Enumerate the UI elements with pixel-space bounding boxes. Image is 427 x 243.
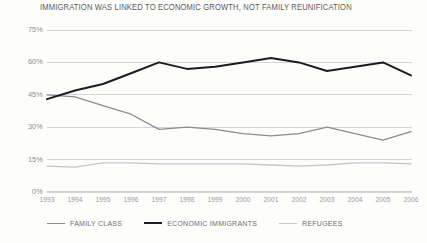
y-axis-tick-label: 75% (28, 26, 43, 34)
legend-swatch-icon (47, 223, 65, 224)
y-axis-tick-label: 60% (28, 58, 43, 66)
x-axis-tick-label: 1993 (39, 196, 54, 203)
x-axis-tick-label: 1998 (179, 196, 194, 203)
x-axis-tick-label: 1999 (207, 196, 222, 203)
legend-swatch-icon (279, 223, 297, 224)
series-line-family-class (47, 95, 411, 140)
x-axis-tick-label: 2001 (263, 196, 278, 203)
y-axis-tick-label: 30% (28, 123, 43, 131)
x-axis-tick-label: 1997 (151, 196, 166, 203)
legend-item-refugees[interactable]: REFUGEES (279, 220, 343, 227)
x-axis-tick-label: 2003 (319, 196, 334, 203)
x-axis-line (47, 191, 412, 192)
x-axis-tick-label: 2000 (235, 196, 250, 203)
series-line-economic-immigrants (47, 58, 411, 99)
x-axis-tick-label: 1995 (95, 196, 110, 203)
chart-legend: FAMILY CLASSECONOMIC IMMIGRANTSREFUGEES (47, 216, 412, 230)
x-axis-tick-label: 1996 (123, 196, 138, 203)
legend-label: ECONOMIC IMMIGRANTS (167, 220, 257, 227)
legend-swatch-icon (144, 222, 162, 224)
x-axis-tick-label: 2004 (347, 196, 362, 203)
x-axis-tick-label: 2002 (291, 196, 306, 203)
plot-area (47, 30, 412, 192)
y-axis-tick-label: 0% (32, 188, 43, 196)
chart-title: IMMIGRATION WAS LINKED TO ECONOMIC GROWT… (40, 3, 352, 12)
chart-container: IMMIGRATION WAS LINKED TO ECONOMIC GROWT… (0, 0, 427, 243)
series-lines (47, 30, 412, 192)
x-axis-labels: 1993199419951996199719981999200020012002… (47, 196, 412, 208)
x-axis-tick-label: 1994 (67, 196, 82, 203)
y-axis-tick-label: 45% (28, 91, 43, 99)
x-axis-tick-label: 2006 (403, 196, 418, 203)
y-axis-tick-label: 15% (28, 156, 43, 164)
y-axis-labels: 0%15%30%45%60%75% (14, 30, 43, 192)
legend-label: REFUGEES (302, 220, 343, 227)
series-line-refugees (47, 163, 411, 167)
legend-item-economic-immigrants[interactable]: ECONOMIC IMMIGRANTS (144, 220, 257, 227)
legend-item-family-class[interactable]: FAMILY CLASS (47, 220, 122, 227)
x-axis-tick-label: 2005 (375, 196, 390, 203)
legend-label: FAMILY CLASS (70, 220, 122, 227)
